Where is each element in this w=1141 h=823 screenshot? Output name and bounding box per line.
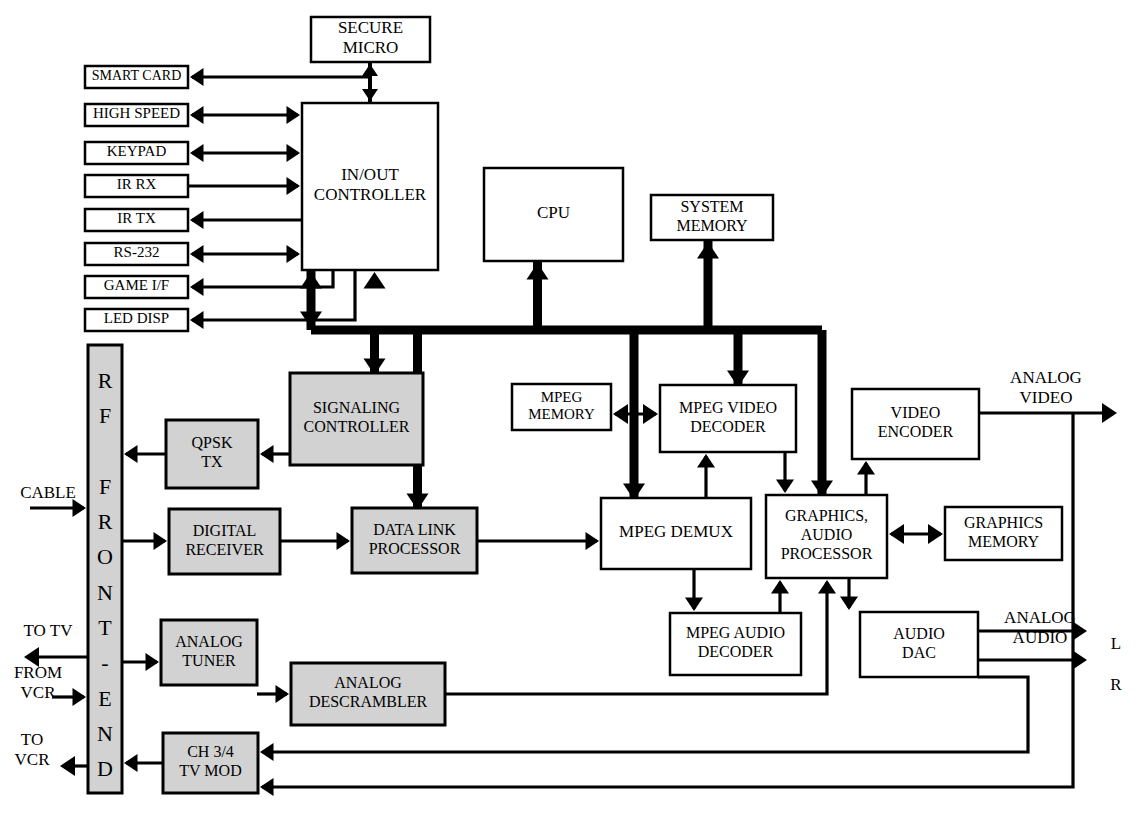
block-boxes: SECUREMICROSMART CARDHIGH SPEEDKEYPADIR … [85,17,1062,793]
io-label-line: ANALOG [1010,368,1082,387]
arrowhead-graphics-venc-arrow [857,461,875,475]
wire-video-ch34 [262,413,1073,787]
block-mpeg_demux[interactable]: MPEG DEMUX [601,498,751,569]
block-label-line: MEMORY [676,217,748,234]
block-label-line: CONTROLLER [314,185,427,204]
block-data_link_processor[interactable]: DATA LINKPROCESSOR [352,508,477,573]
arrowhead-demux-mad-arrow [685,598,703,612]
block-label-line: AUDIO [893,625,945,642]
block-label-line: MPEG AUDIO [686,624,785,641]
arrowhead-graphics-gmem-l [889,524,904,544]
block-label-line: E [98,686,111,711]
arrowhead-rf-tuner-arrow [146,653,160,671]
block-ir_rx[interactable]: IR RX [85,175,188,197]
block-label-line: ANALOG [334,674,402,691]
block-label-line: RECEIVER [185,541,264,558]
arrowhead-digrx-dlp-arrow [337,532,351,550]
block-label-line: MICRO [343,38,399,57]
block-secure_micro[interactable]: SECUREMICRO [311,17,430,62]
arrowhead-mpegmem-l [613,404,628,424]
block-label-line: MPEG VIDEO [679,399,777,416]
block-in_out_controller[interactable]: IN/OUTCONTROLLER [302,103,438,270]
block-label-line: DIGITAL [193,522,257,539]
block-keypad[interactable]: KEYPAD [85,142,188,164]
block-audio_dac[interactable]: AUDIODAC [860,612,978,677]
block-digital_receiver[interactable]: DIGITALRECEIVER [169,509,280,574]
arrowhead-mpegmem-r [643,404,658,424]
io-label-line: ANALOG [1004,608,1076,627]
block-label-line: KEYPAD [107,143,167,159]
arrowhead-leddisp-arrow [190,311,204,329]
arrowhead-iobus-up [300,272,322,289]
io-label-line: CABLE [20,483,76,502]
io-label-line: FROM [14,663,62,682]
arrowhead-rs232-l [190,245,204,263]
block-mpeg_video_decoder[interactable]: MPEG VIDEODECODER [660,385,796,452]
block-rs232[interactable]: RS-232 [85,243,188,265]
arrowhead-rf-digrx-arrow [154,532,168,550]
arrowhead-gameif-arrow [190,278,204,296]
block-signaling_controller[interactable]: SIGNALINGCONTROLLER [290,373,423,465]
block-analog_tuner[interactable]: ANALOGTUNER [161,620,257,685]
io-label-cable: CABLE [20,483,76,502]
block-rf_front_end[interactable]: RFFRONT-END [88,345,122,793]
block-diagram-canvas: SECUREMICROSMART CARDHIGH SPEEDKEYPADIR … [0,0,1141,823]
block-label-line: GAME I/F [104,277,169,293]
block-graphics_audio_proc[interactable]: GRAPHICS,AUDIOPROCESSOR [766,495,887,578]
block-video_encoder[interactable]: VIDEOENCODER [852,389,979,459]
block-ch34_tv_mod[interactable]: CH 3/4TV MOD [163,733,258,793]
block-mpeg_memory[interactable]: MPEGMEMORY [512,384,611,430]
io-label-line: VCR [15,750,51,769]
block-smart_card[interactable]: SMART CARD [85,66,188,88]
arrowhead-bus-cpu-arrow [527,263,549,280]
arrowhead-graphics-gmem-r [928,524,943,544]
arrowhead-sm-up [362,64,378,76]
block-label-line: TV MOD [179,762,241,779]
io-label-analog_video: ANALOGVIDEO [1010,368,1082,407]
block-analog_descrambler[interactable]: ANALOGDESCRAMBLER [291,663,445,725]
block-label-line: PROCESSOR [781,545,873,562]
block-label-line: ANALOG [175,633,243,650]
block-label-line: MEMORY [968,533,1040,550]
block-label-line: CPU [537,203,570,222]
block-label-line: CONTROLLER [304,418,410,435]
block-qpsk_tx[interactable]: QPSKTX [166,420,258,488]
block-label-line: LED DISP [104,310,169,326]
block-ir_tx[interactable]: IR TX [85,209,188,231]
block-game_if[interactable]: GAME I/F [85,276,188,298]
block-cpu[interactable]: CPU [484,168,623,261]
io-label-to_vcr: TOVCR [15,730,51,769]
arrowhead-video-ch34-arrow [260,778,274,796]
io-label-channel_left: L [1111,634,1121,653]
block-label-line: SECURE [338,18,403,37]
block-label-line: PROCESSOR [369,540,461,557]
arrowhead-from-vcr-in-arrow [73,688,87,706]
arrowhead-graphics-dac-arrow [840,597,858,611]
block-graphics_memory[interactable]: GRAPHICSMEMORY [945,507,1062,560]
block-label-line: SYSTEM [680,198,743,215]
block-led_disp[interactable]: LED DISP [85,309,188,331]
arrowhead-tuner-descrambler-arrow [276,685,290,703]
arrowhead-highspeed-l [190,106,204,124]
block-label-line: RS-232 [114,244,160,260]
block-label-line: DATA LINK [373,521,456,538]
block-label-line: AUDIO [801,526,853,543]
block-high_speed[interactable]: HIGH SPEED [85,104,188,126]
block-label-line: IN/OUT [341,165,399,184]
block-mpeg_audio_decoder[interactable]: MPEG AUDIODECODER [670,613,801,675]
arrowhead-dlp-demux-arrow [586,532,600,550]
arrowhead-mvd-graphics-arrow [776,480,794,494]
block-label-line: F [99,403,111,428]
io-label-line: AUDIO [1013,628,1068,647]
block-label-line: MPEG [541,389,583,405]
block-system_memory[interactable]: SYSTEMMEMORY [651,195,773,240]
arrowhead-rf-to-vcr-arrow [60,756,75,776]
arrowhead-rs232-r [287,245,301,263]
block-label-line: GRAPHICS, [785,507,868,524]
arrowhead-smartcard-arrow [190,68,204,86]
block-label-line: D [97,756,113,781]
block-label-line: SMART CARD [92,68,182,83]
io-label-analog_audio: ANALOGAUDIO [1004,608,1076,647]
io-label-line: R [1110,675,1122,694]
arrowhead-descrambler-graphics-arrow [818,580,836,594]
